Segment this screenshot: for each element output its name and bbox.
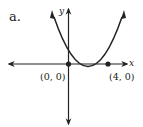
point-origin-label: (0, 0) (40, 71, 66, 82)
x-axis-label: x (129, 58, 134, 68)
y-axis-label: y (58, 6, 65, 16)
point-4-0-label: (4, 0) (109, 71, 135, 82)
graph: a. x y (0, 0) (4, 0) (0, 0, 143, 127)
parabola-curve (54, 17, 122, 67)
point-4-0 (105, 61, 110, 66)
parabola-arrow-left (50, 10, 55, 19)
problem-label: a. (9, 9, 21, 24)
parabola-arrow-right (121, 10, 126, 19)
point-origin (66, 61, 71, 66)
